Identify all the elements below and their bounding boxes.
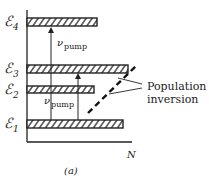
x-axis-label: N xyxy=(126,149,137,160)
level-bar-e2 xyxy=(27,86,94,93)
energy-level-diagram: N ℰ4 ℰ3 ℰ2 ℰ1 νpump νpump Population inv… xyxy=(0,0,209,183)
level-bar-e3 xyxy=(27,65,128,73)
annotation-line-1: Population xyxy=(147,80,206,93)
annotation-pointer-upper xyxy=(118,78,142,84)
level-label-e1: ℰ1 xyxy=(4,115,19,134)
level-bar-e1 xyxy=(27,120,123,128)
level-bar-e4 xyxy=(27,18,97,26)
level-label-e4: ℰ4 xyxy=(4,13,19,32)
annotation-line-2: inversion xyxy=(147,93,198,106)
level-label-e3: ℰ3 xyxy=(4,60,19,79)
pump-label-e3: νpump xyxy=(44,95,74,109)
figure-caption: (a) xyxy=(64,165,78,176)
level-label-e2: ℰ2 xyxy=(4,81,19,100)
pump-label-e4: νpump xyxy=(57,37,87,51)
